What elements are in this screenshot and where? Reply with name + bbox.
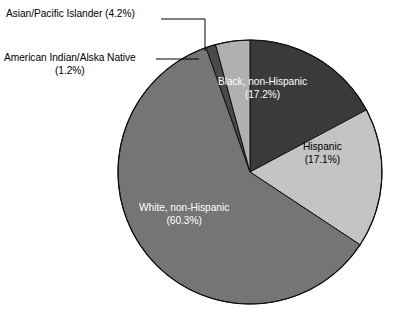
slice-callout-text-american-indian-alska-native: American Indian/Alska Native — [4, 52, 136, 65]
leader-line-asian-pacific-islander — [161, 19, 205, 51]
slice-label-white-non-hispanic: White, non-Hispanic (60.3%) — [139, 202, 229, 227]
slice-label-value-black-non-hispanic: (17.2%) — [218, 89, 307, 102]
slice-label-value-hispanic: (17.1%) — [303, 154, 342, 167]
pie-chart: Asian/Pacific Islander (4.2%) American I… — [0, 0, 395, 321]
slice-label-value-white-non-hispanic: (60.3%) — [139, 215, 229, 228]
slice-callout-label-asian-pacific-islander: Asian/Pacific Islander (4.2%) — [6, 8, 135, 21]
slice-label-hispanic: Hispanic (17.1%) — [303, 141, 342, 166]
slice-label-text-white-non-hispanic: White, non-Hispanic — [139, 202, 229, 215]
slice-callout-value-american-indian-alska-native: (1.2%) — [4, 65, 136, 78]
slice-label-text-hispanic: Hispanic — [303, 141, 342, 154]
slice-label-text-black-non-hispanic: Black, non-Hispanic — [218, 76, 307, 89]
slice-callout-text-asian-pacific-islander: Asian/Pacific Islander (4.2%) — [6, 8, 135, 21]
slice-callout-label-american-indian-alska-native: American Indian/Alska Native (1.2%) — [4, 52, 136, 77]
slice-label-black-non-hispanic: Black, non-Hispanic (17.2%) — [218, 76, 307, 101]
